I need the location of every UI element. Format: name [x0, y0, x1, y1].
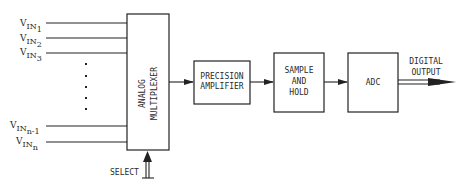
- svg-text:VINn-1: VINn-1: [9, 120, 40, 136]
- input-label-vin3: VIN3: [19, 47, 42, 63]
- input-label-vin1: VIN1: [19, 18, 42, 34]
- sh-label-line3: HOLD: [289, 88, 308, 97]
- select-label: SELECT: [110, 168, 139, 177]
- sh-label-line1: SAMPLE: [285, 66, 314, 75]
- ellipsis-dots: [85, 63, 87, 110]
- analog-multiplexer-block: [127, 14, 169, 150]
- mux-label-line1: ANALOG: [138, 79, 147, 108]
- input-label-vin-n-minus-1: VINn-1: [9, 120, 40, 136]
- mux-label-line2: MULTIPLEXER: [150, 67, 159, 120]
- adc-label: ADC: [366, 78, 381, 87]
- digital-output-arrow-icon: [398, 78, 456, 86]
- output-label-line2: OUTPUT: [412, 68, 441, 77]
- input-label-vin-n: VINn: [15, 136, 38, 152]
- amp-label-line1: PRECISION: [200, 72, 244, 81]
- output-label-line1: DIGITAL: [409, 57, 443, 66]
- sh-label-line2: AND: [292, 77, 307, 86]
- block-diagram: VIN1 VIN2 VIN3 VINn-1 VINn ANALOG MULTIP…: [0, 0, 475, 184]
- svg-text:VIN1: VIN1: [19, 18, 42, 34]
- svg-text:VIN3: VIN3: [19, 47, 42, 63]
- select-arrow-icon: [142, 151, 154, 178]
- amp-label-line2: AMPLIFIER: [200, 82, 244, 91]
- svg-text:VINn: VINn: [15, 136, 38, 152]
